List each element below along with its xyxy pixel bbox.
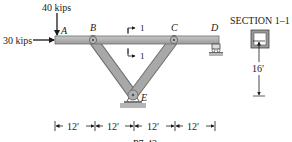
pin-b	[89, 36, 96, 43]
section-mark-top: 1	[140, 23, 145, 33]
span-dimension-label-4: 12′	[187, 121, 199, 132]
span-dimension-label-1: 12′	[67, 121, 79, 132]
strut-be	[93, 40, 133, 95]
height-dimension-label: 16′	[252, 63, 264, 74]
figure-caption-fragment: P7-43	[133, 138, 157, 142]
point-label-d: D	[210, 22, 219, 33]
point-label-e: E	[140, 92, 147, 103]
beam-ad	[55, 36, 219, 44]
hollow-box-section-icon	[251, 30, 269, 48]
pin-c	[170, 36, 177, 43]
load-label-vertical: 40 kips	[42, 2, 71, 13]
roller-support-d	[209, 44, 223, 56]
point-label-a: A	[60, 25, 68, 36]
strut-ce	[133, 40, 174, 95]
point-label-c: C	[171, 22, 178, 33]
load-label-horizontal: 30 kips	[3, 35, 32, 46]
section-title: SECTION 1–1	[230, 15, 290, 26]
frame-diagram: 40 kips 30 kips A B C D E 1 1 SECTION 1–…	[0, 0, 292, 142]
section-mark-bottom: 1	[140, 51, 145, 61]
point-label-b: B	[90, 22, 96, 33]
span-dimension-label-2: 12′	[107, 121, 119, 132]
span-dimension-label-3: 12′	[147, 121, 159, 132]
